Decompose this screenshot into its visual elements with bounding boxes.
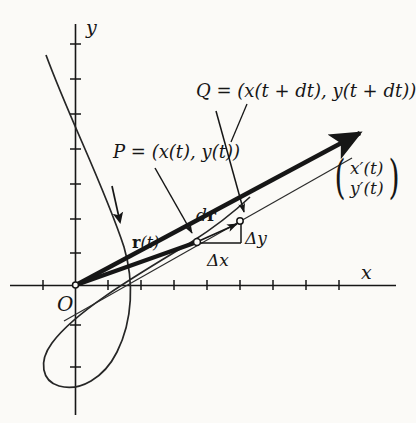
point-q-marker (237, 218, 243, 224)
origin-marker (73, 282, 79, 288)
tangent-component-x: x′(t) (350, 158, 384, 178)
p-label-tail-line (231, 104, 247, 142)
position-vector-arg-glyph: (t) (140, 233, 159, 252)
differential-dr-label: dr (196, 207, 216, 224)
parametric-curve (44, 55, 250, 387)
differential-d-glyph: d (196, 205, 207, 225)
position-vector-label: r(t) (132, 235, 159, 251)
delta-y-label: Δy (245, 230, 267, 247)
column-entries: x′(t) y′(t) (349, 158, 385, 198)
secant-line (64, 158, 352, 321)
point-q-label: Q = (x(t + dt), y(t + dt)) (196, 82, 416, 100)
tangent-component-y: y′(t) (350, 178, 384, 198)
origin-label: O (57, 294, 73, 314)
parametric-curve-figure: y x O Q = (x(t + dt), y(t + dt)) P = (x(… (0, 0, 416, 423)
x-axis-label: x (361, 263, 372, 282)
differential-r-glyph: r (207, 205, 216, 225)
tangent-vector-column: ( x′(t) y′(t) ) (331, 158, 402, 198)
column-open-paren: ( (334, 160, 345, 196)
delta-x-label: Δx (207, 252, 229, 269)
p-leader-line (155, 168, 192, 233)
point-p-marker (194, 239, 201, 246)
y-axis-label: y (86, 18, 97, 37)
point-p-label: P = (x(t), y(t)) (113, 143, 240, 161)
column-close-paren: ) (388, 160, 399, 196)
